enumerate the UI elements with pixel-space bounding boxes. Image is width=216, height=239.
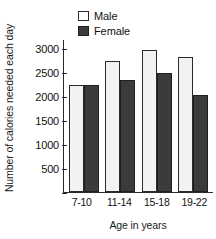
bar-group bbox=[178, 40, 208, 192]
bar-male bbox=[69, 85, 84, 192]
bar-female bbox=[193, 95, 208, 192]
bar-female bbox=[157, 73, 172, 192]
bar-group bbox=[105, 40, 135, 192]
x-tick-label: 19-22 bbox=[177, 196, 211, 208]
bar-chart-figure: Number of calories needed each day 3000 … bbox=[0, 0, 216, 239]
y-tick-label: 2500 bbox=[35, 67, 59, 79]
bar-groups bbox=[64, 40, 213, 192]
legend-label-male: Male bbox=[94, 10, 117, 22]
y-tick-label: 2000 bbox=[35, 91, 59, 103]
chart-legend: Male Female bbox=[78, 9, 130, 37]
legend-item-male: Male bbox=[78, 9, 130, 22]
y-tick-label: 1500 bbox=[35, 115, 59, 127]
bar-group bbox=[142, 40, 172, 192]
bar-group bbox=[69, 40, 99, 192]
legend-swatch-male-icon bbox=[78, 11, 89, 21]
x-tick-label: 15-18 bbox=[140, 196, 174, 208]
bar-male bbox=[142, 50, 157, 193]
legend-item-female: Female bbox=[78, 24, 130, 37]
y-tick-mark bbox=[62, 193, 67, 194]
bar-male bbox=[178, 57, 193, 192]
y-axis-tick-layer: 3000 2500 2000 1500 1000 500 bbox=[16, 0, 62, 239]
bar-female bbox=[120, 80, 135, 192]
legend-swatch-female-icon bbox=[78, 26, 89, 36]
x-axis-title: Age in years bbox=[63, 219, 213, 231]
y-tick-label: 3000 bbox=[35, 43, 59, 55]
x-tick-label: 7-10 bbox=[65, 196, 99, 208]
y-tick-label: 1000 bbox=[35, 139, 59, 151]
y-tick-label: 500 bbox=[41, 163, 59, 175]
plot-area bbox=[63, 40, 213, 193]
bar-female bbox=[84, 85, 99, 192]
y-axis-title: Number of calories needed each day bbox=[1, 8, 17, 208]
bar-male bbox=[105, 61, 120, 192]
x-tick-label: 11-14 bbox=[102, 196, 136, 208]
x-axis-tick-labels: 7-10 11-14 15-18 19-22 bbox=[63, 196, 213, 208]
legend-label-female: Female bbox=[94, 25, 130, 37]
